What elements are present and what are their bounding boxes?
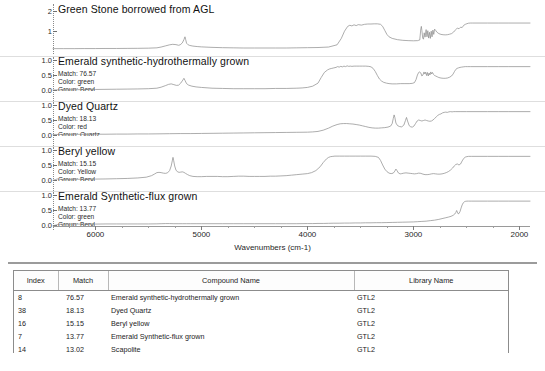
cell-match: 15.15 <box>58 317 108 330</box>
cell-match: 13.02 <box>58 343 108 356</box>
spectrum-panel-match-1[interactable]: 1.0 0.5 0.0 Emerald synthetic-hydrotherm… <box>0 57 545 101</box>
x-minor-tick <box>69 226 70 228</box>
cell-index: 8 <box>14 291 58 305</box>
spectral-search-window: 2 1 Green Stone borrowed from AGL 1.0 0.… <box>0 0 545 371</box>
table-row[interactable]: 3818.13Dyed QuartzGTL2 <box>14 304 508 317</box>
column-header-library-name[interactable]: Library Name <box>354 271 508 291</box>
cell-match: 76.57 <box>58 291 108 305</box>
x-minor-tick <box>493 226 494 228</box>
x-tick-label: 4000 <box>298 231 316 239</box>
column-header-match[interactable]: Match <box>58 271 108 291</box>
cell-index: 7 <box>14 330 58 343</box>
x-minor-tick <box>254 226 255 228</box>
table-header-row: Index Match Compound Name Library Name <box>14 271 508 291</box>
x-tick-label: 2000 <box>510 231 528 239</box>
cell-compound-name: Beryl yellow <box>108 317 354 330</box>
x-minor-tick <box>466 226 467 228</box>
x-minor-tick <box>281 226 282 228</box>
cell-library-name: GTL2 <box>354 304 508 317</box>
x-minor-tick <box>360 226 361 228</box>
x-minor-tick <box>334 226 335 228</box>
table-row[interactable]: 713.77Emerald Synthetic-flux grownGTL2 <box>14 330 508 343</box>
spectrum-trace <box>0 57 545 101</box>
cell-match: 18.13 <box>58 304 108 317</box>
x-tick-label: 5000 <box>192 231 210 239</box>
cell-compound-name: Emerald Synthetic-flux grown <box>108 330 354 343</box>
x-axis: 60005000400030002000 Wavenumbers (cm-1) <box>0 226 545 256</box>
spectrum-panel-match-3[interactable]: 1.0 0.5 0.0 Beryl yellow Match: 15.15 Co… <box>0 147 545 191</box>
spectra-stack: 2 1 Green Stone borrowed from AGL 1.0 0.… <box>0 0 545 255</box>
section-divider <box>8 262 537 264</box>
table-row[interactable]: 1615.15Beryl yellowGTL2 <box>14 317 508 330</box>
spectrum-trace <box>0 2 545 54</box>
table-row[interactable]: 1413.02ScapoliteGTL2 <box>14 343 508 356</box>
cell-index: 14 <box>14 343 58 356</box>
x-minor-tick <box>148 226 149 228</box>
cell-library-name: GTL2 <box>354 317 508 330</box>
search-results-table[interactable]: Index Match Compound Name Library Name 8… <box>13 270 509 353</box>
x-minor-tick <box>122 226 123 228</box>
x-axis-line <box>53 226 530 227</box>
cell-compound-name: Scapolite <box>108 343 354 356</box>
cell-library-name: GTL2 <box>354 291 508 305</box>
cell-index: 16 <box>14 317 58 330</box>
column-header-compound-name[interactable]: Compound Name <box>108 271 354 291</box>
x-axis-title: Wavenumbers (cm-1) <box>0 243 545 252</box>
spectrum-trace <box>0 147 545 191</box>
x-minor-tick <box>387 226 388 228</box>
cell-library-name: GTL2 <box>354 343 508 356</box>
spectrum-panel-match-2[interactable]: 1.0 0.5 0.0 Dyed Quartz Match: 18.13 Col… <box>0 102 545 146</box>
spectrum-panel-query[interactable]: 2 1 Green Stone borrowed from AGL <box>0 2 545 54</box>
cell-compound-name: Dyed Quartz <box>108 304 354 317</box>
table-row[interactable]: 876.57Emerald synthetic-hydrothermally g… <box>14 291 508 305</box>
x-minor-tick <box>440 226 441 228</box>
column-header-index[interactable]: Index <box>14 271 58 291</box>
cell-library-name: GTL2 <box>354 330 508 343</box>
x-minor-tick <box>175 226 176 228</box>
x-tick-label: 6000 <box>86 231 104 239</box>
spectrum-trace <box>0 102 545 146</box>
x-tick-label: 3000 <box>404 231 422 239</box>
cell-match: 13.77 <box>58 330 108 343</box>
x-minor-tick <box>228 226 229 228</box>
cell-compound-name: Emerald synthetic-hydrothermally grown <box>108 291 354 305</box>
cell-index: 38 <box>14 304 58 317</box>
